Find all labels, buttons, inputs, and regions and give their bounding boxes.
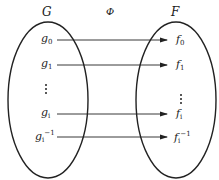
item-gi-inverse: gi−1 — [35, 130, 55, 144]
set-g-label: G — [42, 6, 52, 18]
item-f0: f0 — [176, 34, 185, 47]
item-fi: fi — [176, 108, 182, 121]
mapping-diagram — [0, 0, 219, 180]
set-f-label: F — [171, 6, 179, 18]
right-vdots-icon — [180, 94, 182, 106]
item-gi: gi — [41, 107, 50, 120]
item-f1: f1 — [176, 59, 185, 72]
item-fi-inverse: fi−1 — [174, 131, 191, 145]
item-g1: g1 — [41, 58, 53, 71]
map-phi-label: Φ — [106, 7, 114, 17]
item-g0: g0 — [41, 33, 53, 46]
left-vdots-icon — [45, 84, 47, 96]
